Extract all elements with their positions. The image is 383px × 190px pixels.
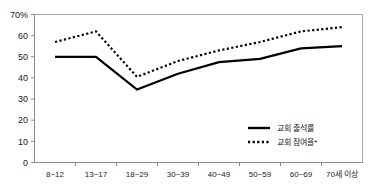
x-tick-label: 8~12 bbox=[46, 170, 65, 179]
y-tick-label: 50 bbox=[18, 52, 28, 62]
chart-legend: 교회 출석률교회 참여율* bbox=[248, 123, 317, 147]
y-tick-label: 10 bbox=[18, 137, 28, 147]
y-tick-group: 010203040506070% bbox=[10, 10, 35, 168]
legend-label: 교회 출석률 bbox=[277, 123, 314, 133]
x-tick-label: 40~49 bbox=[208, 170, 231, 179]
series-group bbox=[55, 27, 342, 89]
x-tick-label: 30~39 bbox=[167, 170, 190, 179]
y-tick-label: 20 bbox=[18, 115, 28, 125]
x-axis: 8~1213~1718~2930~3940~4950~5960~6970세 이상 bbox=[35, 163, 363, 180]
x-tick-group: 8~1213~1718~2930~3940~4950~5960~6970세 이상 bbox=[46, 163, 359, 180]
chart-container: 010203040506070% 8~1213~1718~2930~3940~4… bbox=[0, 0, 383, 190]
y-axis: 010203040506070% bbox=[10, 10, 35, 168]
series-line-church-attendance bbox=[55, 46, 342, 89]
x-tick-label: 13~17 bbox=[85, 170, 108, 179]
x-tick-label: 70세 이상 bbox=[326, 169, 359, 179]
x-tick-label: 60~69 bbox=[290, 170, 313, 179]
series-line-church-participation bbox=[55, 27, 342, 77]
x-tick-label: 18~29 bbox=[126, 170, 149, 179]
y-tick-label: 0 bbox=[23, 158, 28, 168]
y-tick-label: 60 bbox=[18, 31, 28, 41]
line-chart: 010203040506070% 8~1213~1718~2930~3940~4… bbox=[0, 0, 383, 190]
y-tick-label: 40 bbox=[18, 73, 28, 83]
x-tick-label: 50~59 bbox=[249, 170, 272, 179]
legend-label: 교회 참여율* bbox=[277, 137, 317, 147]
y-tick-label: 70% bbox=[10, 10, 28, 20]
y-tick-label: 30 bbox=[18, 94, 28, 104]
